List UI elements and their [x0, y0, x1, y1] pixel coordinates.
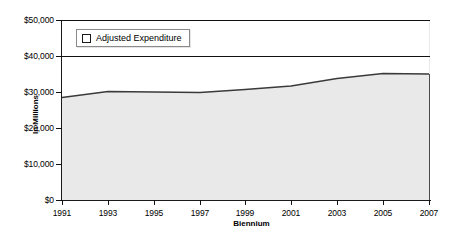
- x-tick-label-2001: 2001: [282, 208, 301, 218]
- y-tick-label-40000: $40,000: [24, 51, 54, 61]
- x-tick-1991: [62, 200, 63, 205]
- x-tick-1999: [245, 200, 246, 205]
- y-tick-10000: [56, 164, 62, 165]
- legend-swatch-icon: [82, 34, 91, 43]
- chart-legend: Adjusted Expenditure: [76, 29, 190, 47]
- y-tick-label-10000: $10,000: [24, 159, 54, 169]
- gridline-50000: [62, 20, 430, 21]
- x-tick-2007: [429, 200, 430, 205]
- x-tick-label-2007: 2007: [420, 208, 439, 218]
- x-tick-2003: [337, 200, 338, 205]
- x-tick-2005: [383, 200, 384, 205]
- x-tick-label-1991: 1991: [53, 208, 72, 218]
- x-tick-1995: [154, 200, 155, 205]
- plot-area: [62, 20, 430, 200]
- plot-right-edge: [429, 74, 430, 201]
- x-tick-label-2003: 2003: [328, 208, 347, 218]
- y-axis-line: [61, 20, 62, 201]
- x-tick-label-1999: 1999: [236, 208, 255, 218]
- y-tick-30000: [56, 92, 62, 93]
- y-axis-title: In Millions: [31, 75, 40, 155]
- y-tick-20000: [56, 128, 62, 129]
- gridline-40000: [62, 56, 430, 57]
- x-tick-2001: [291, 200, 292, 205]
- y-tick-40000: [56, 56, 62, 57]
- y-tick-50000: [56, 20, 62, 21]
- x-tick-label-1995: 1995: [145, 208, 164, 218]
- x-tick-1997: [200, 200, 201, 205]
- x-tick-label-2005: 2005: [374, 208, 393, 218]
- chart-container: $50,000 $40,000 $30,000 $20,000 $10,000 …: [0, 0, 463, 243]
- y-tick-label-0: $0: [45, 195, 54, 205]
- x-tick-1993: [108, 200, 109, 205]
- x-tick-label-1997: 1997: [191, 208, 210, 218]
- y-tick-label-50000: $50,000: [24, 15, 54, 25]
- legend-label-adjusted-expenditure: Adjusted Expenditure: [96, 33, 182, 43]
- x-tick-label-1993: 1993: [99, 208, 118, 218]
- x-axis-title: Biennium: [0, 219, 463, 228]
